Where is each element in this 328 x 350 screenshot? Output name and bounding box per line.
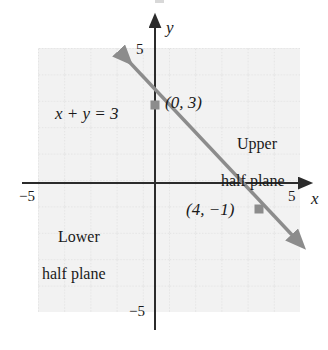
- upper-half-plane-line1: Upper: [237, 135, 277, 152]
- lower-half-plane-line2: half plane: [42, 265, 106, 283]
- math-figure-half-planes: y x 5 −5 −5 5 x + y = 3 (0, 3) (4, −1) U…: [0, 0, 328, 350]
- y-axis-tick-neg5: −5: [129, 303, 145, 320]
- x-axis-label: x: [311, 189, 319, 208]
- x-axis-tick-5: 5: [288, 188, 296, 205]
- upper-half-plane-line2: half plane: [221, 172, 285, 190]
- y-axis-label: y: [166, 18, 174, 37]
- lower-half-plane-line1: Lower: [58, 228, 100, 245]
- lower-half-plane-label: Lower half plane: [42, 210, 106, 319]
- x-axis-tick-neg5: −5: [19, 188, 35, 205]
- point-label-0-3: (0, 3): [165, 93, 202, 112]
- upper-half-plane-label: Upper half plane: [221, 117, 285, 226]
- equation-label: x + y = 3: [55, 104, 119, 123]
- y-axis-tick-5: 5: [136, 41, 144, 58]
- point-marker-0-3: [151, 101, 160, 110]
